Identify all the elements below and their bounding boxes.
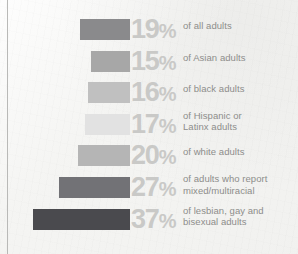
- bar-category-label: of black adults: [183, 83, 295, 95]
- bar-category-label-line2: Latinx adults: [183, 121, 295, 133]
- percent-sign: %: [159, 83, 176, 105]
- bar-category-label: of white adults: [183, 146, 295, 158]
- bar-value-label: 15%: [131, 46, 179, 78]
- bar-category-label-line2: mixed/multiracial: [183, 185, 295, 197]
- bar-category-label: of all adults: [183, 20, 295, 32]
- bar-category-label-line2: bisexual adults: [183, 216, 295, 228]
- bar-category-label: of adults who reportmixed/multiracial: [183, 173, 295, 196]
- bar: [88, 82, 130, 103]
- percent-sign: %: [159, 20, 176, 42]
- bar-category-label-line1: of lesbian, gay and: [183, 205, 295, 217]
- bar-category-label-line1: of Hispanic or: [183, 110, 295, 122]
- bar-value-number: 37: [131, 204, 159, 234]
- bar-value-number: 17: [131, 109, 159, 139]
- bar-value-label: 27%: [131, 172, 179, 204]
- bar-value-label: 37%: [131, 204, 179, 236]
- percent-sign: %: [159, 146, 176, 168]
- infographic-bar-chart: 19%of all adults15%of Asian adults16%of …: [0, 0, 298, 254]
- bar: [85, 114, 130, 135]
- chart-row: 27%of adults who reportmixed/multiracial: [0, 177, 298, 198]
- bar: [80, 19, 130, 40]
- chart-row: 16%of black adults: [0, 82, 298, 103]
- bar-category-label-line1: of white adults: [183, 146, 295, 158]
- percent-sign: %: [159, 115, 176, 137]
- bar-value-label: 16%: [131, 77, 179, 109]
- bar-value-label: 20%: [131, 140, 179, 172]
- bar-category-label-line1: of adults who report: [183, 173, 295, 185]
- bar-category-label-line1: of all adults: [183, 20, 295, 32]
- percent-sign: %: [159, 178, 176, 200]
- bar: [91, 51, 130, 72]
- bar-value-number: 19: [131, 14, 159, 44]
- bar-value-number: 20: [131, 140, 159, 170]
- bar-category-label: of Asian adults: [183, 52, 295, 64]
- bar: [33, 209, 130, 230]
- chart-row: 20%of white adults: [0, 145, 298, 166]
- bar-value-label: 17%: [131, 109, 179, 141]
- bar-value-number: 27: [131, 172, 159, 202]
- percent-sign: %: [159, 210, 176, 232]
- bar-value-number: 16: [131, 77, 159, 107]
- bar-value-label: 19%: [131, 14, 179, 46]
- chart-row: 19%of all adults: [0, 19, 298, 40]
- bar-category-label: of lesbian, gay andbisexual adults: [183, 205, 295, 228]
- chart-row: 15%of Asian adults: [0, 51, 298, 72]
- bar: [59, 177, 130, 198]
- bar-category-label: of Hispanic orLatinx adults: [183, 110, 295, 133]
- bar-value-number: 15: [131, 46, 159, 76]
- chart-row: 37%of lesbian, gay andbisexual adults: [0, 209, 298, 230]
- bar: [78, 145, 130, 166]
- percent-sign: %: [159, 52, 176, 74]
- chart-row: 17%of Hispanic orLatinx adults: [0, 114, 298, 135]
- bar-category-label-line1: of black adults: [183, 83, 295, 95]
- bar-category-label-line1: of Asian adults: [183, 52, 295, 64]
- chart-plot-area: 19%of all adults15%of Asian adults16%of …: [0, 0, 298, 254]
